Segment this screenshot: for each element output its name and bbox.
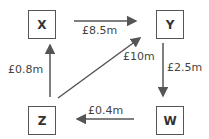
node-y: Y (156, 10, 184, 39)
edge-label-y-w: £2.5m (167, 61, 202, 74)
edge-label-z-x: £0.8m (8, 63, 43, 76)
edge-label-w-z: £0.4m (88, 104, 123, 117)
node-z: Z (28, 106, 56, 135)
flow-diagram: X Y Z W £8.5m £10m £2.5m £0.4m £0.8m (0, 0, 209, 139)
arrow-z-to-y (58, 38, 140, 98)
edge-label-x-y: £8.5m (82, 24, 117, 37)
node-x: X (28, 10, 56, 39)
edge-label-z-y: £10m (123, 50, 155, 63)
node-w: W (156, 106, 184, 135)
